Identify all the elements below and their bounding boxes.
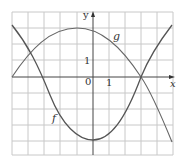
origin-label: 0 <box>85 76 91 87</box>
axes <box>12 14 172 155</box>
curve-g-label: g <box>113 30 120 43</box>
graph-canvas: y x 0 1 1 g f <box>0 0 182 161</box>
curve-f-label: f <box>51 112 58 125</box>
x-axis-label: x <box>170 78 176 89</box>
x-tick-one-label: 1 <box>106 77 112 88</box>
y-tick-one-label: 1 <box>84 55 90 66</box>
y-axis-label: y <box>82 9 89 20</box>
curve-f <box>12 25 172 140</box>
